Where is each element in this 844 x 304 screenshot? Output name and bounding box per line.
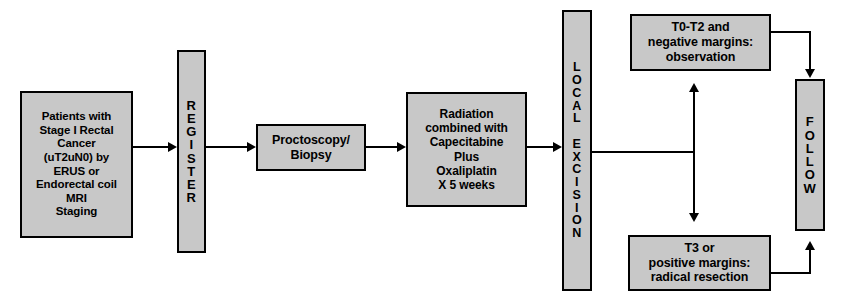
- edge-radiation-to-local-excision-arrowhead: [553, 142, 562, 152]
- node-patients-label: Patients with Stage I Rectal Cancer (uT2…: [33, 110, 120, 219]
- edge-patients-to-register-arrowhead: [168, 142, 177, 152]
- edge-radical-resection-to-follow-arrowhead: [805, 241, 815, 250]
- node-register-label: R E G I S T E R: [183, 99, 200, 205]
- edge-patients-to-register: [133, 146, 168, 148]
- edge-branch-to-observation: [693, 92, 695, 153]
- edge-register-to-proctoscopy: [206, 146, 247, 148]
- node-follow-label: F O L L O W: [801, 115, 820, 195]
- node-radical-resection-label: T3 or positive margins: radical resectio…: [646, 241, 754, 285]
- flowchart-canvas: Patients with Stage I Rectal Cancer (uT2…: [0, 0, 844, 304]
- node-observation: T0-T2 and negative margins: observation: [630, 14, 771, 71]
- node-observation-label: T0-T2 and negative margins: observation: [645, 20, 756, 64]
- edge-radiation-to-local-excision: [527, 146, 553, 148]
- node-patients: Patients with Stage I Rectal Cancer (uT2…: [20, 91, 133, 238]
- node-register: R E G I S T E R: [177, 50, 206, 253]
- edge-proctoscopy-to-radiation-arrowhead: [397, 142, 406, 152]
- edge-observation-to-follow-horizontal: [771, 31, 811, 33]
- node-proctoscopy: Proctoscopy/ Biopsy: [256, 124, 366, 171]
- edge-branch-to-radical-resection-arrowhead: [689, 213, 699, 222]
- edge-radical-resection-to-follow-horizontal: [771, 272, 811, 274]
- node-radiation-label: Radiation combined with Capecitabine Plu…: [422, 107, 511, 192]
- edge-register-to-proctoscopy-arrowhead: [247, 142, 256, 152]
- edge-radical-resection-to-follow-vertical: [809, 250, 811, 274]
- node-local-excision: L O C A L E X C I S I O N: [562, 10, 592, 291]
- node-radical-resection: T3 or positive margins: radical resectio…: [628, 235, 771, 291]
- edge-branch-to-radical-resection: [693, 151, 695, 213]
- edge-local-excision-branch-stem: [592, 151, 695, 153]
- node-proctoscopy-label: Proctoscopy/ Biopsy: [269, 133, 353, 163]
- edge-branch-to-observation-arrowhead: [689, 83, 699, 92]
- edge-proctoscopy-to-radiation: [366, 146, 397, 148]
- node-follow: F O L L O W: [795, 79, 825, 231]
- edge-observation-to-follow-vertical: [809, 31, 811, 70]
- edge-observation-to-follow-arrowhead: [805, 69, 815, 78]
- node-radiation: Radiation combined with Capecitabine Plu…: [406, 92, 527, 207]
- node-local-excision-label: L O C A L E X C I S I O N: [569, 61, 585, 240]
